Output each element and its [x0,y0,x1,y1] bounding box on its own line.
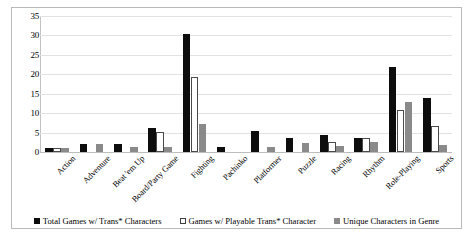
bar-group [389,16,412,152]
legend-swatch-icon [34,218,40,224]
x-axis-label: Pachinko [221,154,249,182]
bar [328,142,335,152]
bar-group [80,16,103,152]
bar-group [45,16,68,152]
bar [423,98,430,152]
plot-area [40,16,452,152]
bar [199,124,206,152]
y-tick-label-15: 15 [30,89,39,98]
bar-group [217,16,240,152]
bar-chart-figure: 05101520253035 ActionAdventureBeat 'em U… [0,0,473,248]
bar-group [423,16,446,152]
y-tick-label-35: 35 [30,12,39,21]
bar [405,102,412,152]
y-tick-label-10: 10 [30,109,39,118]
y-tick-label-0: 0 [35,148,39,157]
legend-item[interactable]: Total Games w/ Trans* Characters [34,216,162,226]
bar-group [354,16,377,152]
bar-group [251,16,274,152]
chart-legend: Total Games w/ Trans* CharactersGames w/… [11,216,462,226]
y-axis-tick-labels: 05101520253035 [11,16,39,152]
x-axis-label: Fighting [189,154,215,180]
x-axis-label: Sports [434,154,455,175]
bar [286,138,293,152]
bar [251,131,258,152]
legend-swatch-icon [180,218,186,224]
bar [191,77,198,152]
bar [354,138,361,152]
bar [130,147,137,152]
bar [389,67,396,152]
bar [267,147,274,152]
y-tick-label-5: 5 [35,128,39,137]
legend-label: Unique Characters in Genre [343,216,439,226]
bar [217,147,224,152]
x-axis-category-labels: ActionAdventureBeat 'em UpBoard/Party Ga… [40,154,452,214]
y-tick-label-25: 25 [30,50,39,59]
legend-item[interactable]: Unique Characters in Genre [334,216,439,226]
bar [96,144,103,152]
bar [336,146,343,152]
x-axis-label: Platformer [252,154,283,185]
bar-group [114,16,137,152]
x-axis-label: Rhythm [361,154,386,179]
y-tick-label-30: 30 [30,31,39,40]
bar [439,145,446,152]
legend-label: Total Games w/ Trans* Characters [43,216,162,226]
bar [320,135,327,152]
bar [45,148,52,152]
x-axis-label: Adventure [81,154,112,185]
x-axis-label: Action [55,154,77,176]
bar [362,138,369,152]
y-tick-label-20: 20 [30,70,39,79]
bar [148,128,155,152]
bar [156,132,163,152]
gridline-0 [40,152,452,153]
legend-swatch-icon [334,218,340,224]
bar [61,148,68,152]
x-axis-label: Racing [329,154,352,177]
bar [397,110,404,152]
legend-label: Games w/ Playable Trans* Character [189,216,316,226]
bar-group [183,16,206,152]
bar [302,143,309,152]
bar-group [148,16,171,152]
x-axis-label: Puzzle [296,154,318,176]
bar [183,34,190,152]
bar [370,142,377,152]
bar [431,126,438,152]
legend-item[interactable]: Games w/ Playable Trans* Character [180,216,316,226]
bar-group [286,16,309,152]
bar [164,147,171,152]
bar [114,144,121,152]
bar [80,144,87,152]
bar [53,148,60,152]
bar-group [320,16,343,152]
x-axis-label: Role-Playing [384,154,421,191]
